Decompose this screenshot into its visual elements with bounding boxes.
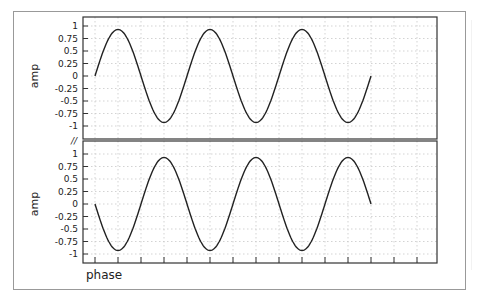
y-tick-label: 0.75: [58, 162, 78, 172]
faint-divider: [471, 20, 472, 270]
y-tick-label: -0.25: [55, 212, 78, 222]
top-y-axis-label: amp: [28, 64, 41, 88]
y-tick-label: 0.25: [58, 187, 78, 197]
x-axis-label: phase: [86, 268, 122, 282]
y-tick-label: 1: [72, 149, 78, 159]
axis-break-marker: //: [70, 136, 78, 146]
y-tick-label: 0: [72, 71, 78, 81]
y-tick-label: -0.25: [55, 84, 78, 94]
y-tick-label: -0.5: [60, 224, 78, 234]
y-tick-label: -1: [69, 121, 78, 131]
chart: 10.750.50.250-0.25-0.5-0.75-110.750.50.2…: [0, 0, 478, 300]
y-tick-label: -1: [69, 249, 78, 259]
y-tick-label: 0: [72, 199, 78, 209]
y-tick-label: -0.75: [55, 109, 78, 119]
y-tick-label: 0.25: [58, 59, 78, 69]
y-tick-label: 0.75: [58, 34, 78, 44]
y-tick-label: 0.5: [64, 46, 78, 56]
y-tick-label: 1: [72, 21, 78, 31]
y-tick-label: -0.75: [55, 237, 78, 247]
bottom-y-axis-label: amp: [28, 192, 41, 216]
chart-canvas: 10.750.50.250-0.25-0.5-0.75-110.750.50.2…: [0, 0, 478, 300]
y-tick-label: 0.5: [64, 174, 78, 184]
y-tick-label: -0.5: [60, 96, 78, 106]
outer-frame: [14, 12, 466, 290]
